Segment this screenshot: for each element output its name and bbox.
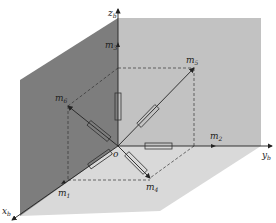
- z-axis-label: zb: [107, 8, 117, 19]
- coordinate-diagram: zb yb xb o m1 m2 m3 m4 m5 m6: [0, 0, 276, 223]
- origin-label: o: [113, 149, 119, 159]
- y-axis-label: yb: [261, 150, 271, 161]
- x-axis-label: xb: [2, 206, 11, 217]
- back-wall-plane: [118, 18, 261, 146]
